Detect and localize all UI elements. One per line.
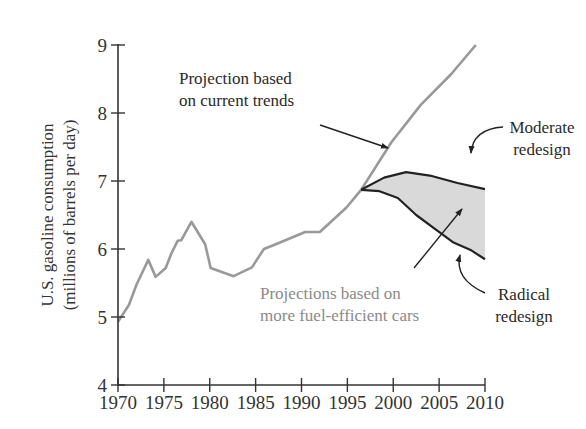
annotation-text: Radical: [498, 285, 550, 304]
x-tick-label: 1990: [283, 392, 321, 413]
annotation-text: more fuel-efficient cars: [260, 306, 419, 325]
annotation-arrow: [471, 127, 503, 153]
y-tick-label: 8: [98, 103, 108, 124]
gasoline-consumption-chart: 4567891970197519801985199019952000200520…: [0, 0, 586, 429]
annotations: Projection basedon current trendsModerat…: [179, 69, 575, 326]
y-axis-label-line2: (millions of barrels per day): [60, 120, 79, 311]
x-tick-label: 2000: [374, 392, 412, 413]
annotation-text: Projections based on: [260, 284, 401, 303]
y-tick-label: 7: [98, 171, 108, 192]
x-tick-label: 1980: [191, 392, 229, 413]
annotation-text: on current trends: [179, 91, 294, 110]
annotation-text: redesign: [495, 307, 553, 326]
annotation-text: redesign: [513, 140, 571, 159]
x-tick-label: 1985: [237, 392, 275, 413]
series-line-1: [361, 45, 476, 190]
x-tick-label: 2010: [466, 392, 504, 413]
x-tick-label: 1970: [99, 392, 137, 413]
annotation-arrow: [459, 255, 485, 293]
annotation-text: Moderate: [509, 118, 574, 137]
y-axis-label-line1: U.S. gasoline consumption: [38, 123, 57, 307]
x-tick-label: 2005: [420, 392, 458, 413]
x-tick-label: 1995: [328, 392, 366, 413]
x-tick-label: 1975: [145, 392, 183, 413]
y-tick-label: 6: [98, 239, 108, 260]
y-axis-label: U.S. gasoline consumption (millions of b…: [38, 120, 79, 311]
annotation-text: Projection based: [179, 69, 292, 88]
y-tick-label: 9: [98, 35, 108, 56]
y-tick-label: 5: [98, 307, 108, 328]
annotation-arrow: [320, 125, 388, 148]
